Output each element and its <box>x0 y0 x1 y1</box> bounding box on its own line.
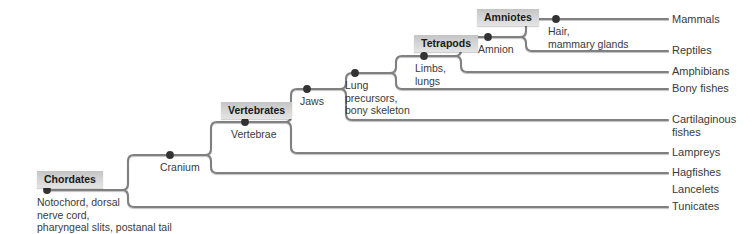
branch-line <box>455 56 668 72</box>
clade-box-tetrapods[interactable]: Tetrapods <box>414 35 478 52</box>
node-label-lung: Lung precursors, bony skeleton <box>345 79 410 117</box>
node-dot-vertebrae[interactable] <box>241 118 249 126</box>
node-label-root: Notochord, dorsal nerve cord, pharyngeal… <box>37 196 172 234</box>
node-dot-jaws[interactable] <box>303 85 311 93</box>
node-dot-amnion[interactable] <box>484 33 492 41</box>
node-dot-lung[interactable] <box>351 69 359 77</box>
taxon-label-lancelets[interactable]: Lancelets <box>672 183 719 196</box>
node-label-jaws: Jaws <box>300 95 324 108</box>
clade-box-chordates[interactable]: Chordates <box>37 171 103 188</box>
node-label-vertebrae: Vertebrae <box>231 128 277 141</box>
taxon-label-bonyfishes[interactable]: Bony fishes <box>672 82 729 95</box>
branch-line <box>205 155 668 173</box>
taxon-label-reptiles[interactable]: Reptiles <box>672 44 712 57</box>
node-label-cranium: Cranium <box>160 161 200 174</box>
taxon-label-amphibians[interactable]: Amphibians <box>672 65 729 78</box>
clade-box-amniotes[interactable]: Amniotes <box>477 9 539 26</box>
taxon-label-cartilaginous[interactable]: Cartilaginous fishes <box>672 113 736 139</box>
taxon-label-tunicates[interactable]: Tunicates <box>672 200 719 213</box>
node-label-amnion: Amnion <box>478 43 514 56</box>
node-dot-limbs[interactable] <box>420 52 428 60</box>
taxon-label-mammals[interactable]: Mammals <box>672 13 720 26</box>
clade-box-vertebrates[interactable]: Vertebrates <box>221 102 292 119</box>
node-dot-hair[interactable] <box>552 15 560 23</box>
node-label-hair: Hair, mammary glands <box>548 25 629 50</box>
taxon-label-lampreys[interactable]: Lampreys <box>672 146 720 159</box>
branch-line <box>285 122 668 153</box>
branch-line <box>122 190 668 207</box>
node-label-limbs: Limbs, lungs <box>415 62 446 87</box>
taxon-label-hagfishes[interactable]: Hagfishes <box>672 166 721 179</box>
node-dot-cranium[interactable] <box>166 151 174 159</box>
